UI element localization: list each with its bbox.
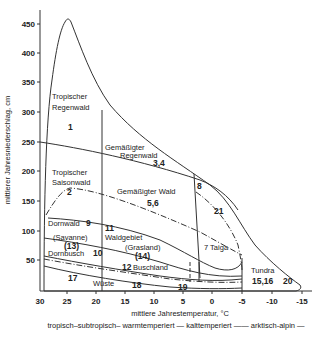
svg-text:5,6: 5,6 — [147, 198, 159, 208]
svg-text:150: 150 — [22, 197, 36, 206]
svg-text:Waldgebiet: Waldgebiet — [105, 233, 143, 242]
svg-text:50: 50 — [26, 256, 35, 265]
y-ticks: 450 400 350 300 250 200 150 100 50 — [22, 20, 40, 265]
svg-text:350: 350 — [22, 78, 36, 87]
svg-text:-5: -5 — [238, 297, 246, 306]
svg-text:15,16: 15,16 — [252, 276, 274, 286]
svg-text:15: 15 — [121, 297, 130, 306]
svg-text:Saisonwald: Saisonwald — [52, 178, 90, 187]
svg-text:400: 400 — [22, 49, 36, 58]
svg-text:100: 100 — [22, 227, 36, 236]
svg-text:20: 20 — [92, 297, 101, 306]
svg-text:30: 30 — [36, 297, 45, 306]
svg-text:12: 12 — [122, 262, 132, 272]
svg-text:18: 18 — [132, 280, 142, 290]
svg-text:0: 0 — [210, 297, 215, 306]
svg-text:19: 19 — [178, 282, 188, 292]
svg-text:Dornwald: Dornwald — [48, 219, 80, 228]
svg-text:Tropischer: Tropischer — [52, 168, 88, 177]
svg-text:Dornbusch: Dornbusch — [48, 249, 84, 258]
svg-text:5: 5 — [181, 297, 186, 306]
biome-labels: Tropischer Regenwald 1 Gemäßigter Regenw… — [48, 92, 293, 292]
svg-text:250: 250 — [22, 138, 36, 147]
svg-text:Wüste: Wüste — [93, 279, 114, 288]
svg-text:10: 10 — [150, 297, 159, 306]
svg-text:Tundra: Tundra — [251, 266, 275, 275]
svg-text:Buschland: Buschland — [133, 263, 168, 272]
svg-text:Regenwald: Regenwald — [52, 103, 90, 112]
x-axis-title: mittlere Jahrestemperatur, °C — [131, 309, 229, 318]
svg-text:300: 300 — [22, 108, 36, 117]
svg-text:(14): (14) — [135, 251, 150, 261]
svg-text:21: 21 — [214, 206, 224, 216]
svg-text:3,4: 3,4 — [153, 158, 165, 168]
svg-text:10: 10 — [93, 248, 103, 258]
svg-text:8: 8 — [197, 181, 202, 191]
svg-text:11: 11 — [105, 223, 114, 233]
svg-text:Tropischer: Tropischer — [52, 92, 88, 101]
biome-diagram: 450 400 350 300 250 200 150 100 50 30 25… — [0, 0, 330, 340]
svg-text:200: 200 — [22, 167, 36, 176]
x-ticks: 30 25 20 15 10 5 0 -5 -10 -15 — [36, 291, 309, 306]
svg-text:2: 2 — [67, 187, 72, 197]
svg-text:17: 17 — [68, 273, 78, 283]
y-axis-title: mittlerer Jahresniederschlag, cm — [3, 96, 12, 204]
svg-text:9: 9 — [86, 218, 91, 228]
svg-text:Gemäßigter Wald: Gemäßigter Wald — [117, 187, 176, 196]
svg-text:20: 20 — [283, 276, 293, 286]
boundary-21 — [196, 192, 242, 270]
svg-text:1: 1 — [68, 122, 73, 132]
svg-text:25: 25 — [63, 297, 72, 306]
svg-text:7 Taiga: 7 Taiga — [204, 243, 229, 252]
svg-text:-15: -15 — [296, 297, 308, 306]
svg-text:-10: -10 — [266, 297, 278, 306]
zones-caption: tropisch–subtropisch– warmtemperiert — k… — [47, 321, 305, 330]
svg-text:Regenwald: Regenwald — [120, 151, 158, 160]
svg-text:450: 450 — [22, 20, 36, 29]
